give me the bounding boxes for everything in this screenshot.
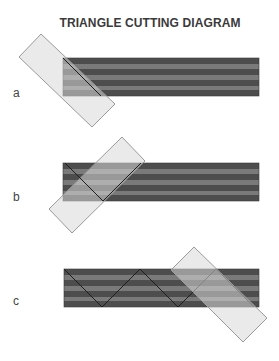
- panel-a: [19, 34, 259, 127]
- triangle-cutting-diagram: [0, 0, 279, 361]
- panel-b: [49, 137, 259, 233]
- panel-c: [64, 247, 267, 342]
